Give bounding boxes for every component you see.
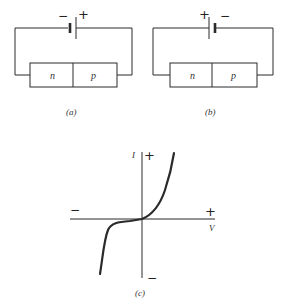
x-axis-label: V bbox=[209, 223, 216, 233]
wire-right bbox=[216, 28, 273, 75]
x-axis-minus-sign: − bbox=[70, 203, 80, 217]
wire-left bbox=[153, 28, 209, 75]
wire-left bbox=[15, 28, 68, 75]
pn-junction-figure: − + n p (a) + − n p (b) I + − − + V (c) bbox=[0, 0, 283, 307]
panel-a-p-label: p bbox=[90, 70, 96, 81]
panel-a-caption: (a) bbox=[66, 107, 77, 117]
panel-b-minus-sign: − bbox=[220, 9, 230, 23]
panel-c-caption: (c) bbox=[135, 288, 145, 298]
panel-a-plus-sign: + bbox=[78, 7, 89, 22]
y-axis-label: I bbox=[131, 150, 136, 160]
panel-a-n-label: n bbox=[50, 70, 55, 81]
panel-b-plus-sign: + bbox=[199, 7, 210, 22]
panel-a-minus-sign: − bbox=[58, 9, 68, 23]
iv-characteristic-curve bbox=[100, 153, 174, 274]
wire-right bbox=[76, 28, 132, 75]
pn-block bbox=[170, 63, 257, 87]
panel-b-circuit bbox=[153, 17, 273, 87]
x-axis-plus-sign: + bbox=[205, 204, 216, 219]
panel-a-circuit bbox=[15, 17, 132, 87]
y-axis-plus-sign: + bbox=[144, 148, 155, 163]
panel-b-caption: (b) bbox=[205, 107, 216, 117]
panel-b-n-label: n bbox=[190, 70, 195, 81]
panel-c-graph bbox=[70, 152, 215, 278]
y-axis-minus-sign: − bbox=[147, 271, 157, 285]
panel-b-p-label: p bbox=[230, 70, 236, 81]
